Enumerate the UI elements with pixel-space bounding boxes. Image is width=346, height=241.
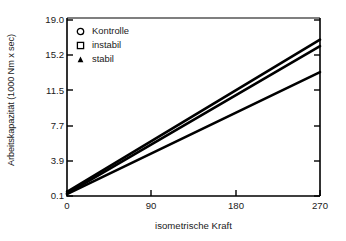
legend-item-kontrolle: Kontrolle [74, 25, 194, 37]
chart-legend: Kontrolle instabil stabil [74, 25, 194, 67]
x-tick-label: 270 [300, 200, 340, 211]
legend-label: Kontrolle [92, 26, 129, 36]
chart-figure: Arbeitskapazität (1000 Nm x sec) 19.0 15… [0, 0, 346, 241]
x-tick-marks [67, 190, 320, 196]
x-tick-label: 0 [47, 200, 87, 211]
filled-triangle-icon [74, 55, 86, 64]
series-line-instabil [67, 46, 320, 194]
open-circle-icon [74, 27, 86, 36]
x-tick-label: 180 [216, 200, 256, 211]
x-axis-title: isometrische Kraft [67, 220, 320, 231]
series-line-stabil [67, 72, 320, 194]
legend-item-instabil: instabil [74, 39, 194, 51]
legend-item-stabil: stabil [74, 53, 194, 65]
y-tick-marks [67, 20, 73, 196]
open-square-icon [74, 41, 86, 50]
x-tick-label: 90 [131, 200, 171, 211]
legend-label: instabil [92, 40, 121, 50]
legend-label: stabil [92, 54, 114, 64]
